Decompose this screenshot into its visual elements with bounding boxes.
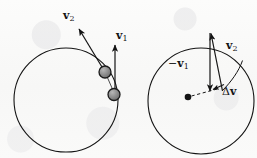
label-v1-left: v1 xyxy=(116,26,128,43)
ball-upper xyxy=(99,66,111,78)
label-delta-v-symbol: v xyxy=(230,85,236,98)
center-dot xyxy=(185,94,192,101)
left-panel-group xyxy=(14,29,120,152)
circular-path-left xyxy=(14,48,118,152)
right-panel-group xyxy=(148,33,254,154)
label-v2-right: v2 xyxy=(226,36,238,53)
vector-v2-right-shaft xyxy=(211,34,223,92)
label-minus-v1-right: −v1 xyxy=(168,54,189,71)
label-v1-left-subscript: 1 xyxy=(122,34,127,43)
label-delta-v: Δv xyxy=(222,82,236,99)
label-v2-left-subscript: 2 xyxy=(69,14,74,23)
label-v2-right-subscript: 2 xyxy=(232,44,237,53)
vector-diagram-svg xyxy=(0,0,257,158)
label-delta-v-sign: Δ xyxy=(222,85,230,98)
circular-path-right xyxy=(148,48,254,154)
radius-dashed-line xyxy=(192,89,220,97)
label-minus-v1-sign: − xyxy=(168,57,177,70)
ball-lower xyxy=(108,89,120,101)
label-minus-v1-subscript: 1 xyxy=(184,62,189,71)
figure-canvas: v2 v1 −v1 v2 Δv xyxy=(0,0,257,158)
label-v2-left: v2 xyxy=(63,6,75,23)
